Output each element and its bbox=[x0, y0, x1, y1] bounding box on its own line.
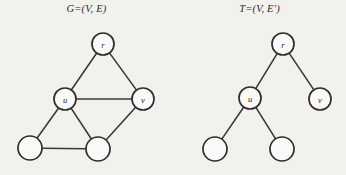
tree-edge-t-r-t-v bbox=[289, 53, 314, 90]
graph-node-g-r: r bbox=[92, 33, 114, 55]
tree-edge-t-u-t-bl bbox=[222, 107, 244, 139]
graph-node-g-u: u bbox=[54, 88, 76, 110]
graph-edge-g-bl-g-bm bbox=[42, 148, 86, 149]
graph-edge-g-r-g-v bbox=[109, 53, 136, 90]
tree-node-group: ruv bbox=[203, 33, 331, 161]
graph-node-circle bbox=[86, 137, 110, 161]
figure-root: G=(V, E) T=(V, E') ruv ruv bbox=[0, 0, 346, 175]
graph-node-label: u bbox=[63, 95, 67, 105]
tree-node-circle bbox=[203, 137, 227, 161]
graph-edge-g-u-g-bm bbox=[71, 108, 91, 139]
tree-node-label: u bbox=[248, 94, 252, 104]
tree-edge-group bbox=[222, 53, 314, 139]
graph-edge-g-r-g-u bbox=[71, 53, 97, 90]
graph-node-g-bl bbox=[18, 136, 42, 160]
tree-edge-t-u-t-bm bbox=[256, 107, 276, 139]
tree-edge-t-r-t-u bbox=[256, 53, 278, 88]
graph-node-circle bbox=[18, 136, 42, 160]
tree-node-label: v bbox=[318, 95, 322, 105]
tree-node-t-v: v bbox=[309, 88, 331, 110]
graph-edge-g-u-g-bl bbox=[37, 108, 59, 138]
graph-edge-group bbox=[37, 53, 137, 149]
diagram-canvas: ruv ruv bbox=[0, 0, 346, 175]
graph-edge-g-v-g-bm bbox=[106, 107, 136, 140]
tree-node-t-u: u bbox=[239, 87, 261, 109]
tree-node-t-bm bbox=[270, 137, 294, 161]
graph-node-g-bm bbox=[86, 137, 110, 161]
graph-node-label: v bbox=[141, 95, 145, 105]
graph-node-group: ruv bbox=[18, 33, 154, 161]
tree-node-circle bbox=[270, 137, 294, 161]
tree-node-t-bl bbox=[203, 137, 227, 161]
graph-node-g-v: v bbox=[132, 88, 154, 110]
tree-node-t-r: r bbox=[272, 33, 294, 55]
